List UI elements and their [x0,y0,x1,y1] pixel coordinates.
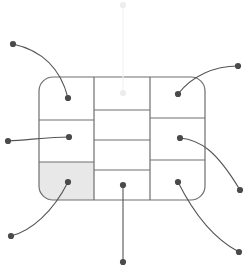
callout-right-bottom-inner-dot[interactable] [175,179,181,185]
callout-center-bottom-inner-dot[interactable] [120,182,126,188]
callout-right-top-outer-dot[interactable] [235,63,241,69]
callout-right-bottom-outer-dot[interactable] [236,249,242,255]
cell-center-row-3[interactable] [94,140,150,170]
callout-center-bottom-outer-dot[interactable] [120,259,126,265]
diagram-canvas [0,0,252,271]
callout-center-top-inner-dot[interactable] [120,90,126,96]
callout-center-top-outer-dot[interactable] [120,2,126,8]
callout-left-middle-inner-dot[interactable] [66,134,72,140]
cell-right-top[interactable] [150,77,205,118]
callout-left-top-inner-dot[interactable] [65,95,71,101]
cell-center-row-2[interactable] [94,110,150,140]
callout-right-middle-outer-dot[interactable] [237,187,243,193]
callout-left-middle-outer-dot[interactable] [5,138,11,144]
callout-right-middle-inner-dot[interactable] [177,135,183,141]
callout-left-bottom-inner-dot[interactable] [65,179,71,185]
callout-right-top-inner-dot[interactable] [175,91,181,97]
callout-left-top-outer-dot[interactable] [10,41,16,47]
callout-left-bottom-outer-dot[interactable] [8,233,14,239]
annotated-layout-svg [0,0,252,271]
cell-left-middle[interactable] [39,120,94,162]
